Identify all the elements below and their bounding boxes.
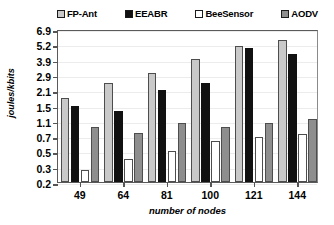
bar-aodv-64 [134, 133, 143, 182]
x-axis-tick-label: 144 [288, 189, 306, 201]
bar-aodv-121 [265, 123, 274, 182]
legend-item-aodv[interactable]: AODV [281, 9, 318, 19]
y-axis-tick-mark [53, 123, 58, 125]
legend-item-beesensor[interactable]: BeeSensor [195, 9, 253, 19]
y-axis-tick-label: 1.1 [36, 117, 51, 129]
y-axis-tick-label: 2.9 [36, 71, 51, 83]
y-axis-tick-mark [53, 46, 58, 48]
y-axis-title: joules/kbits [6, 63, 16, 123]
legend-label: FP-Ant [67, 9, 97, 19]
bar-beesensor-100 [211, 141, 220, 182]
bar-beesensor-81 [168, 151, 177, 182]
bar-eeabr-81 [158, 90, 167, 182]
gridline [58, 31, 317, 32]
y-axis-tick-label: 0.5 [36, 147, 51, 159]
x-axis-tick-label: 64 [117, 189, 129, 201]
chart-legend: FP-AntEEABRBeeSensorAODV [57, 7, 318, 21]
bar-fp-ant-100 [191, 59, 200, 182]
y-axis-tick-mark [53, 169, 58, 171]
bar-beesensor-49 [81, 170, 90, 182]
bar-fp-ant-81 [148, 73, 157, 182]
plot-area: 6.95.23.92.92.11.51.10.70.50.30.24964811… [57, 30, 318, 183]
bar-aodv-144 [308, 119, 317, 182]
bar-eeabr-64 [114, 111, 123, 182]
gridline [58, 184, 317, 185]
y-axis-tick-label: 2.1 [36, 86, 51, 98]
legend-swatch-icon [125, 10, 133, 18]
bar-eeabr-49 [71, 106, 80, 183]
x-axis-tick-label: 121 [245, 189, 263, 201]
y-axis-tick-mark [53, 92, 58, 94]
legend-label: AODV [291, 9, 318, 19]
bar-aodv-81 [178, 123, 187, 182]
bar-aodv-100 [221, 127, 230, 182]
y-axis-tick-mark [53, 62, 58, 64]
y-axis-tick-mark [53, 31, 58, 33]
x-axis-tick-label: 49 [74, 189, 86, 201]
bar-fp-ant-49 [61, 98, 70, 182]
bar-aodv-49 [91, 127, 100, 182]
bar-chart: FP-AntEEABRBeeSensorAODV joules/kbits nu… [0, 0, 334, 225]
bar-fp-ant-64 [104, 83, 113, 182]
legend-swatch-icon [281, 10, 289, 18]
x-axis-tick-mark [297, 182, 299, 187]
y-axis-tick-mark [53, 77, 58, 79]
y-axis-tick-label: 3.9 [36, 56, 51, 68]
y-axis-tick-label: 6.9 [36, 25, 51, 37]
y-axis-tick-label: 5.2 [36, 40, 51, 52]
bar-fp-ant-144 [278, 40, 287, 182]
y-axis-tick-label: 1.5 [36, 102, 51, 114]
bar-beesensor-144 [298, 134, 307, 182]
x-axis-tick-label: 100 [201, 189, 219, 201]
x-axis-tick-mark [167, 182, 169, 187]
y-axis-tick-label: 0.7 [36, 132, 51, 144]
x-axis-tick-mark [80, 182, 82, 187]
y-axis-tick-label: 0.3 [36, 163, 51, 175]
bar-eeabr-100 [201, 83, 210, 182]
legend-swatch-icon [195, 10, 203, 18]
bar-eeabr-121 [245, 48, 254, 182]
y-axis-tick-mark [53, 153, 58, 155]
bar-fp-ant-121 [235, 46, 244, 182]
legend-label: EEABR [135, 9, 167, 19]
y-axis-tick-mark [53, 184, 58, 186]
legend-item-eeabr[interactable]: EEABR [125, 9, 167, 19]
bar-beesensor-64 [124, 159, 133, 182]
legend-label: BeeSensor [205, 9, 253, 19]
x-axis-tick-mark [254, 182, 256, 187]
bar-eeabr-144 [288, 54, 297, 182]
bar-beesensor-121 [255, 137, 264, 182]
legend-item-fp-ant[interactable]: FP-Ant [57, 9, 97, 19]
x-axis-title: number of nodes [57, 205, 318, 216]
x-axis-tick-mark [210, 182, 212, 187]
y-axis-tick-mark [53, 138, 58, 140]
y-axis-tick-label: 0.2 [36, 178, 51, 190]
x-axis-tick-label: 81 [161, 189, 173, 201]
y-axis-tick-mark [53, 108, 58, 110]
legend-swatch-icon [57, 10, 65, 18]
x-axis-tick-mark [123, 182, 125, 187]
